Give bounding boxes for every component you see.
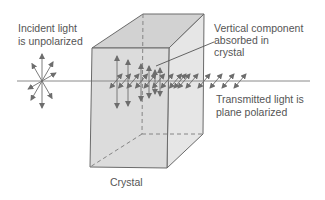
absorbed-label-line-2: absorbed in <box>214 34 269 46</box>
incident-label: Incident light is unpolarized <box>18 22 83 47</box>
transmitted-label: Transmitted light is plane polarized <box>216 93 307 118</box>
diagram-canvas: Incident light is unpolarized Vertical c… <box>0 0 325 200</box>
absorbed-label-line-1: Vertical component <box>214 22 303 34</box>
absorbed-label-line-3: crystal <box>214 46 244 58</box>
polarization-diagram: Incident light is unpolarized Vertical c… <box>0 0 325 200</box>
incident-label-line-1: Incident light <box>18 22 77 34</box>
transmitted-label-line-1: Transmitted light is <box>216 93 304 105</box>
absorbed-label: Vertical component absorbed in crystal <box>214 22 306 58</box>
crystal <box>90 14 204 168</box>
crystal-label: Crystal <box>110 176 143 188</box>
incident-label-line-2: is unpolarized <box>18 35 83 47</box>
transmitted-label-line-2: plane polarized <box>216 106 287 118</box>
